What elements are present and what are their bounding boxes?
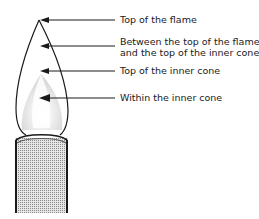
arrow-top-of-flame — [40, 17, 115, 23]
label-top-inner-cone: Top of the inner cone — [120, 65, 220, 76]
label-within-inner-cone: Within the inner cone — [120, 92, 222, 103]
burner-tube — [15, 135, 68, 213]
label-top-of-flame: Top of the flame — [120, 14, 197, 25]
flame-diagram — [0, 0, 259, 219]
arrow-top-inner-cone — [40, 68, 115, 74]
label-between-line-1: Between the top of the flame — [120, 36, 259, 47]
label-between-line-2: and the top of the inner cone — [120, 47, 259, 58]
arrow-between — [40, 43, 115, 49]
inner-cone — [22, 74, 63, 130]
